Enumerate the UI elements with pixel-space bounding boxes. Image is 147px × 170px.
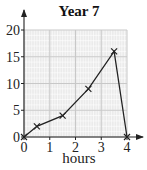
y-tick-label: 5	[13, 103, 20, 118]
x-tick-label: 3	[98, 140, 105, 155]
y-tick-label: 0	[13, 130, 20, 145]
y-tick-label: 15	[6, 50, 20, 65]
y-axis-ticks: 05101520	[6, 23, 24, 145]
x-axis-arrow-icon	[136, 134, 144, 140]
grid	[24, 30, 127, 137]
chart-title: Year 7	[59, 3, 100, 19]
x-axis-label: hours	[62, 150, 95, 166]
line-chart: Year 7 05101520 01234 hours	[0, 0, 147, 170]
x-tick-label: 1	[46, 140, 53, 155]
y-tick-label: 20	[6, 23, 20, 38]
y-axis-arrow-icon	[21, 9, 27, 17]
y-tick-label: 10	[6, 77, 20, 92]
x-tick-label: 0	[21, 140, 28, 155]
x-tick-label: 4	[124, 140, 131, 155]
